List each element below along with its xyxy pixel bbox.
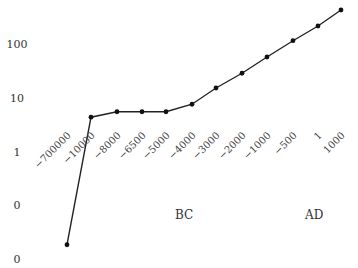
data-point — [65, 242, 70, 247]
data-point — [89, 115, 94, 120]
data-point — [164, 109, 169, 114]
data-point — [140, 109, 145, 114]
data-point — [240, 71, 245, 76]
y-tick-label: 10 — [0, 92, 34, 105]
era-label-bc: BC — [175, 208, 193, 222]
chart-area: 10010100 −700000−10000−8000−6500−5000−40… — [0, 0, 358, 268]
data-point — [339, 8, 344, 13]
data-point — [115, 109, 120, 114]
data-point — [214, 86, 219, 91]
y-tick-label: 1 — [0, 146, 34, 159]
data-point — [316, 24, 321, 29]
data-point — [291, 38, 296, 43]
data-point — [190, 102, 195, 107]
y-tick-label: 0 — [0, 199, 34, 212]
era-label-ad: AD — [305, 208, 323, 222]
y-tick-label: 0 — [0, 253, 34, 266]
line-plot — [0, 0, 358, 268]
data-line — [67, 10, 341, 245]
y-tick-label: 100 — [0, 38, 34, 51]
data-point — [265, 55, 270, 60]
